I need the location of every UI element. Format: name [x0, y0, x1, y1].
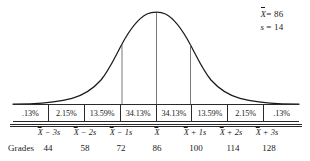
percent-cell: .13% — [13, 105, 49, 121]
z-suffix: + 1s — [191, 128, 207, 137]
mean-symbol: X — [154, 128, 159, 137]
grade-value: 72 — [117, 143, 126, 153]
z-notation-mean: X — [154, 128, 159, 137]
z-suffix: − 2s — [81, 128, 97, 137]
percent-cell: .13% — [264, 105, 299, 121]
percent-cell: 13.59% — [85, 105, 121, 121]
grade-value: 86 — [153, 143, 162, 153]
grades-row: Grades 44 58 72 86 100 114 128 — [0, 143, 310, 157]
percent-cell: 2.15% — [49, 105, 85, 121]
mean-symbol: X — [74, 128, 79, 137]
normal-distribution-figure: X= 86 s = 14 .13% 2.15% 13.59% 34.13% 34… — [0, 0, 310, 161]
z-notation-minus-2s: X − 2s — [74, 128, 97, 137]
z-suffix: − 3s — [45, 128, 61, 137]
z-notation-plus-2s: X + 2s — [220, 128, 243, 137]
mean-symbol: X — [256, 128, 261, 137]
z-suffix: − 1s — [117, 128, 133, 137]
z-suffix: + 3s — [263, 128, 279, 137]
grades-label: Grades — [8, 143, 34, 153]
grade-value: 114 — [226, 143, 239, 153]
grade-value: 44 — [44, 143, 53, 153]
percent-cell: 2.15% — [228, 105, 264, 121]
z-notation-plus-1s: X + 1s — [184, 128, 207, 137]
percent-cell: 34.13% — [157, 105, 193, 121]
z-notation-minus-1s: X − 1s — [110, 128, 133, 137]
percent-band: .13% 2.15% 13.59% 34.13% 34.13% 13.59% 2… — [13, 104, 299, 122]
percent-cell: 34.13% — [121, 105, 157, 121]
grade-value: 100 — [189, 143, 203, 153]
z-notation-plus-3s: X + 3s — [256, 128, 279, 137]
mean-symbol: X — [110, 128, 115, 137]
z-notation-row: X − 3s X − 2s X − 1s X X + 1s X + 2s X +… — [13, 128, 299, 141]
curve-path — [13, 12, 299, 104]
mean-symbol: X — [220, 128, 225, 137]
mean-symbol: X — [38, 128, 43, 137]
z-notation-minus-3s: X − 3s — [38, 128, 61, 137]
percent-cell: 13.59% — [192, 105, 228, 121]
mean-symbol: X — [184, 128, 189, 137]
grade-value: 58 — [81, 143, 90, 153]
grade-value: 128 — [262, 143, 276, 153]
z-suffix: + 2s — [227, 128, 243, 137]
